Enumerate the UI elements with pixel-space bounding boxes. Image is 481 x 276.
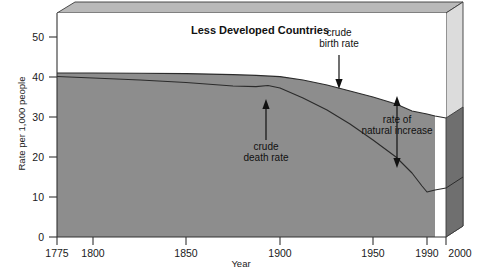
annotation-death-line1: crude — [231, 141, 301, 152]
y-tick-label-20: 20 — [22, 151, 44, 163]
x-tick-label-1775: 1775 — [37, 247, 77, 259]
annotation-crude-death-rate: crude death rate — [231, 141, 301, 163]
population-transition-chart — [0, 0, 481, 276]
y-tick-label-40: 40 — [22, 71, 44, 83]
annotation-increase-line1: rate of — [347, 114, 447, 125]
x-axis-title: Year — [191, 258, 291, 269]
x-axis-ticks — [57, 237, 446, 245]
x-tick-label-1900: 1900 — [260, 247, 300, 259]
annotation-crude-birth-rate: crude birth rate — [304, 27, 374, 49]
figure-canvas: Less Developed Countries Rate per 1,000 … — [0, 0, 481, 276]
x-tick-label-1850: 1850 — [166, 247, 206, 259]
y-axis-ticks — [49, 37, 57, 237]
y-tick-label-50: 50 — [22, 31, 44, 43]
annotation-birth-line1: crude — [304, 27, 374, 38]
box-right-depth-panel — [446, 107, 463, 237]
x-tick-label-2000: 2000 — [440, 247, 480, 259]
y-tick-label-0: 0 — [22, 231, 44, 243]
annotation-rate-of-natural-increase: rate of natural increase — [347, 114, 447, 136]
annotation-increase-line2: natural increase — [347, 125, 447, 136]
y-tick-label-10: 10 — [22, 191, 44, 203]
y-tick-label-30: 30 — [22, 111, 44, 123]
box-top-face — [57, 2, 463, 13]
annotation-birth-line2: birth rate — [304, 38, 374, 49]
annotation-death-line2: death rate — [231, 152, 301, 163]
x-tick-label-1950: 1950 — [353, 247, 393, 259]
x-tick-label-1800: 1800 — [73, 247, 113, 259]
